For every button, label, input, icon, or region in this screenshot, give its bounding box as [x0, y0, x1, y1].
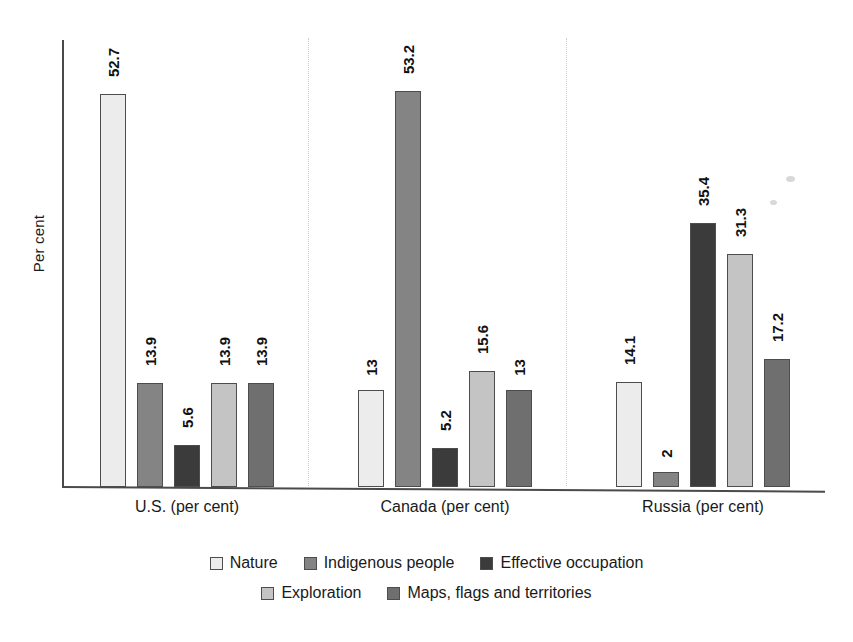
legend-label-effective-occupation: Effective occupation: [500, 554, 643, 572]
legend-row-1: Nature Indigenous people Effective occup…: [0, 548, 853, 578]
bar-group-u-s-per-cent: 52.713.95.613.913.9: [100, 40, 285, 487]
bar-u-s-per-cent-nature[interactable]: [100, 94, 126, 487]
category-label-russia-per-cent: Russia (per cent): [593, 498, 813, 516]
scan-speck-1: [770, 200, 777, 205]
legend-item-maps-flags-territories[interactable]: Maps, flags and territories: [387, 584, 591, 602]
bar-canada-per-cent-indigenous-people[interactable]: [395, 91, 421, 487]
bar-value-label-u-s-per-cent-effective-occupation: 5.6: [180, 407, 195, 428]
bar-russia-per-cent-nature[interactable]: [616, 382, 642, 487]
legend-swatch-exploration: [261, 587, 274, 600]
bar-value-label-canada-per-cent-effective-occupation: 5.2: [438, 410, 453, 431]
bar-value-label-u-s-per-cent-indigenous-people: 13.9: [143, 337, 158, 366]
bar-canada-per-cent-exploration[interactable]: [469, 371, 495, 487]
bar-value-label-russia-per-cent-exploration: 31.3: [733, 208, 748, 237]
legend-swatch-effective-occupation: [480, 557, 493, 570]
bar-russia-per-cent-maps-flags-and-territories[interactable]: [764, 359, 790, 487]
bar-canada-per-cent-maps-flags-and-territories[interactable]: [506, 390, 532, 487]
bar-value-label-canada-per-cent-indigenous-people: 53.2: [401, 45, 416, 74]
bar-value-label-canada-per-cent-maps-flags-and-territories: 13: [512, 359, 527, 376]
legend-item-exploration[interactable]: Exploration: [261, 584, 361, 602]
bar-value-label-canada-per-cent-nature: 13: [364, 359, 379, 376]
legend-label-nature: Nature: [230, 554, 278, 572]
legend-swatch-nature: [210, 557, 223, 570]
bar-russia-per-cent-indigenous-people[interactable]: [653, 472, 679, 487]
legend-swatch-maps-flags-territories: [387, 587, 400, 600]
bar-value-label-u-s-per-cent-maps-flags-and-territories: 13.9: [254, 337, 269, 366]
bar-value-label-canada-per-cent-exploration: 15.6: [475, 325, 490, 354]
category-label-canada-per-cent: Canada (per cent): [335, 498, 555, 516]
bar-group-canada-per-cent: 1353.25.215.613: [358, 40, 543, 487]
bar-value-label-russia-per-cent-nature: 14.1: [622, 336, 637, 365]
scan-speck-2: [786, 176, 795, 182]
legend-row-2: Exploration Maps, flags and territories: [0, 578, 853, 608]
bar-value-label-u-s-per-cent-nature: 52.7: [106, 48, 121, 77]
category-label-u-s-per-cent: U.S. (per cent): [77, 498, 297, 516]
bar-russia-per-cent-exploration[interactable]: [727, 254, 753, 487]
bar-value-label-russia-per-cent-effective-occupation: 35.4: [696, 177, 711, 206]
bar-value-label-russia-per-cent-maps-flags-and-territories: 17.2: [770, 313, 785, 342]
bar-group-russia-per-cent: 14.1235.431.317.2: [616, 40, 801, 487]
bar-u-s-per-cent-indigenous-people[interactable]: [137, 383, 163, 487]
bar-u-s-per-cent-effective-occupation[interactable]: [174, 445, 200, 487]
legend-label-maps-flags-territories: Maps, flags and territories: [407, 584, 591, 602]
bar-u-s-per-cent-maps-flags-and-territories[interactable]: [248, 383, 274, 487]
bar-russia-per-cent-effective-occupation[interactable]: [690, 223, 716, 487]
bar-value-label-russia-per-cent-indigenous-people: 2: [659, 450, 674, 458]
legend-label-exploration: Exploration: [281, 584, 361, 602]
bar-canada-per-cent-nature[interactable]: [358, 390, 384, 487]
bar-value-label-u-s-per-cent-exploration: 13.9: [217, 337, 232, 366]
legend-swatch-indigenous-people: [304, 557, 317, 570]
legend-label-indigenous-people: Indigenous people: [324, 554, 455, 572]
bar-u-s-per-cent-exploration[interactable]: [211, 383, 237, 487]
legend-item-nature[interactable]: Nature: [210, 554, 278, 572]
legend-item-effective-occupation[interactable]: Effective occupation: [480, 554, 643, 572]
plot-area: 52.713.95.613.913.91353.25.215.61314.123…: [62, 40, 825, 487]
bar-chart-figure: Per cent 52.713.95.613.913.91353.25.215.…: [0, 0, 853, 642]
bar-canada-per-cent-effective-occupation[interactable]: [432, 448, 458, 487]
legend-item-indigenous-people[interactable]: Indigenous people: [304, 554, 455, 572]
y-axis-title: Per cent: [30, 184, 47, 304]
chart-legend: Nature Indigenous people Effective occup…: [0, 548, 853, 608]
